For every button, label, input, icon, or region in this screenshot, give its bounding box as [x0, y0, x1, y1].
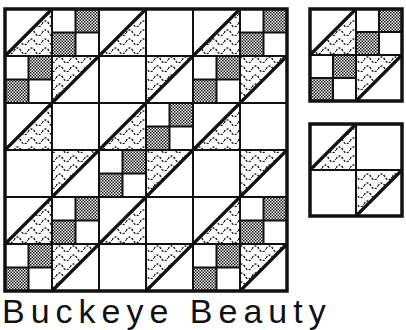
quilt-cell-P: [240, 103, 287, 150]
quilt-cell-P: [99, 56, 146, 103]
quilt-cell-A: [99, 197, 146, 244]
quilt-cell-F: [5, 56, 52, 103]
quilt-cell-P: [310, 170, 356, 216]
quilt-cell-A: [193, 103, 240, 150]
quilt-cell-A: [193, 197, 240, 244]
quilt-cell-A: [310, 124, 356, 170]
quilt-cell-B: [146, 150, 193, 197]
quilt-cell-F: [356, 9, 402, 55]
quilt-cell-B: [146, 244, 193, 291]
quilt-cell-B: [240, 244, 287, 291]
quilt-cell-F: [193, 244, 240, 291]
quilt-cell-P: [99, 244, 146, 291]
quilt-cell-B: [52, 150, 99, 197]
quilt-cell-A: [5, 197, 52, 244]
quilt-cell-F: [240, 9, 287, 56]
quilt-cell-A: [99, 9, 146, 56]
quilt-cell-B: [356, 55, 402, 101]
quilt-cell-P: [52, 103, 99, 150]
quilt-cell-F: [5, 244, 52, 291]
quilt-cell-A: [310, 9, 356, 55]
quilt-cell-B: [52, 244, 99, 291]
quilt-cell-A: [5, 9, 52, 56]
quilt-cell-P: [146, 197, 193, 244]
quilt-cell-A: [193, 9, 240, 56]
quilt-cell-P: [146, 9, 193, 56]
pattern-title: Buckeye Beauty: [2, 294, 332, 328]
side-blocks: [310, 9, 402, 216]
quilt-cell-F: [52, 9, 99, 56]
quilt-cell-F: [193, 56, 240, 103]
quilt-cell-F: [99, 150, 146, 197]
quilt-cell-F: [52, 197, 99, 244]
block-triangle-unit: [310, 124, 402, 216]
quilt-cell-P: [5, 150, 52, 197]
block-buckeye-unit: [310, 9, 402, 101]
quilt-cell-B: [240, 56, 287, 103]
quilt-cell-B: [356, 170, 402, 216]
quilt-cell-B: [240, 150, 287, 197]
quilt-cell-A: [5, 103, 52, 150]
quilt-cell-B: [52, 56, 99, 103]
quilt-cell-B: [146, 56, 193, 103]
quilt-cell-F: [240, 197, 287, 244]
quilt-cell-A: [99, 103, 146, 150]
quilt-cell-F: [310, 55, 356, 101]
quilt-cell-F: [146, 103, 193, 150]
main-quilt-grid: [5, 9, 287, 291]
quilt-cell-P: [356, 124, 402, 170]
quilt-cell-P: [193, 150, 240, 197]
